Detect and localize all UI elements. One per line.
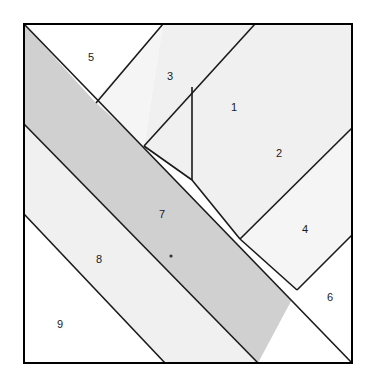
region-label-3: 3	[167, 70, 173, 82]
figure-container: 1 2 3 4 5 6 7 8 9	[0, 0, 369, 390]
region-label-5: 5	[88, 51, 94, 63]
region-label-1: 1	[231, 101, 237, 113]
center-dot	[169, 254, 172, 257]
region-label-4: 4	[302, 223, 308, 235]
region-label-7: 7	[159, 208, 165, 220]
tangram-dissection-svg: 1 2 3 4 5 6 7 8 9	[0, 0, 369, 390]
region-label-9: 9	[57, 318, 63, 330]
region-label-6: 6	[327, 291, 333, 303]
region-label-8: 8	[96, 253, 102, 265]
region-label-2: 2	[276, 147, 282, 159]
